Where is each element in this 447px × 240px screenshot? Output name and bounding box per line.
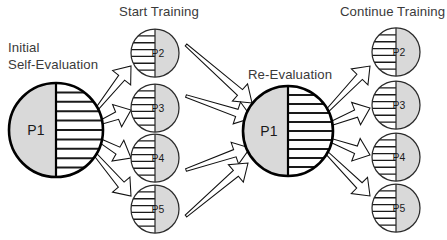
node-label-start-p4: P4 <box>152 153 165 164</box>
node-label-continue-p4: P4 <box>393 152 406 163</box>
node-continue-p3: P3 <box>372 81 420 129</box>
arrow-start-p5-to-p1 <box>185 163 248 217</box>
node-p1-reevaluation: P1 <box>243 86 333 176</box>
node-start-p3: P3 <box>131 84 179 132</box>
stage-label-continue-training: Continue Training <box>340 4 445 19</box>
node-label-start-p2: P2 <box>152 48 165 59</box>
flow-diagram: P1P1P2P3P4P5P2P3P4P5 InitialSelf-Evaluat… <box>0 0 447 240</box>
node-label-start-p5: P5 <box>152 204 165 215</box>
node-start-p2: P2 <box>131 29 179 77</box>
node-start-p5: P5 <box>131 185 179 233</box>
node-continue-p4: P4 <box>372 133 420 181</box>
stage-label-start-training: Start Training <box>119 4 199 19</box>
node-continue-p5: P5 <box>372 184 420 232</box>
node-start-p4: P4 <box>131 134 179 182</box>
arrow-p1-to-continue-p3 <box>329 102 370 125</box>
arrow-p1-to-continue-p4 <box>329 138 370 161</box>
diagram-canvas: P1P1P2P3P4P5P2P3P4P5 InitialSelf-Evaluat… <box>0 0 447 240</box>
node-label-p1-reevaluation: P1 <box>260 123 278 139</box>
node-label-continue-p3: P3 <box>393 100 406 111</box>
node-p1-initial: P1 <box>9 83 103 177</box>
node-label-continue-p2: P2 <box>393 47 406 58</box>
node-continue-p2: P2 <box>372 28 420 76</box>
node-label-start-p3: P3 <box>152 103 165 114</box>
arrow-start-p2-to-p1 <box>185 44 252 103</box>
stage-label-initial-self-evaluation: InitialSelf-Evaluation <box>8 40 98 72</box>
node-label-p1-initial: P1 <box>27 122 45 138</box>
node-label-continue-p5: P5 <box>393 203 406 214</box>
arrow-p1-to-start-p4 <box>98 138 131 161</box>
stage-label-re-evaluation: Re-Evaluation <box>248 67 332 82</box>
